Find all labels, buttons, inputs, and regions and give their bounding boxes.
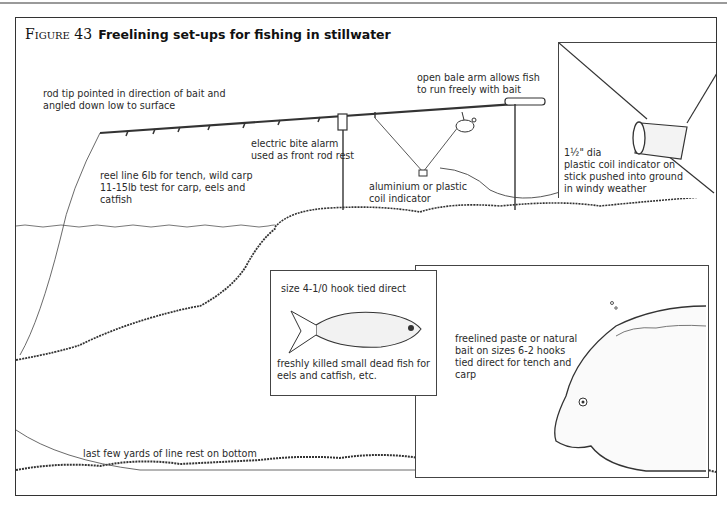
lake-bed-slope <box>16 228 276 360</box>
bite-alarm <box>338 114 347 130</box>
label-bale-arm: open bale arm allows fish to run freely … <box>417 72 540 96</box>
reel-icon <box>456 112 476 132</box>
coil-indicator <box>419 170 427 176</box>
label-hook-size: size 4-1/0 hook tied direct <box>281 283 406 295</box>
label-paste-bait: freelined paste or natural bait on sizes… <box>455 333 577 381</box>
bank-ground <box>275 196 716 227</box>
label-reel-line: reel line 6lb for tench, wild carp 11-15… <box>100 170 252 206</box>
label-line-bottom: last few yards of line rest on bottom <box>83 448 257 460</box>
reel-line <box>20 133 100 355</box>
label-bite-alarm: electric bite alarm used as front rod re… <box>251 138 354 162</box>
label-rod-tip: rod tip pointed in direction of bait and… <box>43 88 226 112</box>
water-surface-line <box>16 225 276 227</box>
label-windy-indicator: 1½" dia plastic coil indicator on stick … <box>564 147 683 195</box>
rod-handle <box>505 98 545 105</box>
coil-indicator-line <box>375 118 462 172</box>
label-coil-indicator: aluminium or plastic coil indicator <box>369 181 467 205</box>
label-dead-fish: freshly killed small dead fish for eels … <box>277 358 430 382</box>
